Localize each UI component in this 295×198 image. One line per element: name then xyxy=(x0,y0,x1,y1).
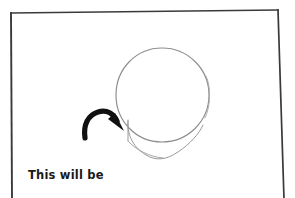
cheek-annotation: This will be the cheek xyxy=(28,139,148,198)
border-left-edge xyxy=(11,13,12,198)
screenshot-canvas: This will be the cheek xyxy=(0,0,295,198)
annotation-line-1: This will be xyxy=(28,168,148,183)
